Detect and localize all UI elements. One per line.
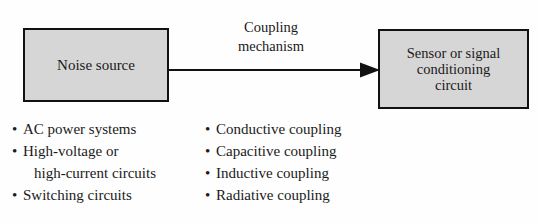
noise-source-block-line-1: Noise source	[57, 57, 135, 74]
list-item-label: Conductive coupling	[216, 121, 341, 137]
noise-sources-list: • AC power systems • High-voltage or hig…	[12, 118, 156, 206]
coupling-mechanism-label-line-1: Coupling	[196, 18, 346, 37]
list-item-label: Radiative coupling	[216, 187, 330, 203]
coupling-mechanism-label-line-2: mechanism	[196, 37, 346, 56]
bullet-icon: •	[205, 162, 210, 184]
list-item-label-continuation: high-current circuits	[23, 162, 156, 184]
sensor-conditioning-circuit-block-line-2: conditioning	[417, 61, 490, 77]
sensor-conditioning-circuit-block: Sensor or signal conditioning circuit	[378, 29, 529, 109]
bullet-icon: •	[12, 184, 17, 206]
list-item-label: Capacitive coupling	[216, 143, 336, 159]
list-item-label: Switching circuits	[23, 187, 132, 203]
list-item: • Inductive coupling	[205, 162, 341, 184]
noise-source-block: Noise source	[23, 28, 169, 102]
noise-coupling-diagram: Noise source Coupling mechanism Sensor o…	[0, 0, 538, 224]
list-item: • Radiative coupling	[205, 184, 341, 206]
bullet-icon: •	[12, 118, 17, 140]
list-item-label: High-voltage or	[23, 143, 118, 159]
coupling-types-list: • Conductive coupling • Capacitive coupl…	[205, 118, 341, 206]
sensor-conditioning-circuit-block-line-3: circuit	[435, 77, 472, 93]
list-item: • Conductive coupling	[205, 118, 341, 140]
list-item: • AC power systems	[12, 118, 156, 140]
bullet-icon: •	[205, 118, 210, 140]
bullet-icon: •	[205, 140, 210, 162]
list-item: • High-voltage or high-current circuits	[12, 140, 156, 184]
list-item-label: Inductive coupling	[216, 165, 329, 181]
list-item-label: AC power systems	[23, 121, 136, 137]
sensor-conditioning-circuit-block-line-1: Sensor or signal	[407, 45, 500, 61]
bullet-icon: •	[12, 140, 17, 162]
list-item: • Switching circuits	[12, 184, 156, 206]
coupling-arrow-icon	[168, 55, 380, 85]
coupling-mechanism-label: Coupling mechanism	[196, 18, 346, 57]
bullet-icon: •	[205, 184, 210, 206]
list-item: • Capacitive coupling	[205, 140, 341, 162]
